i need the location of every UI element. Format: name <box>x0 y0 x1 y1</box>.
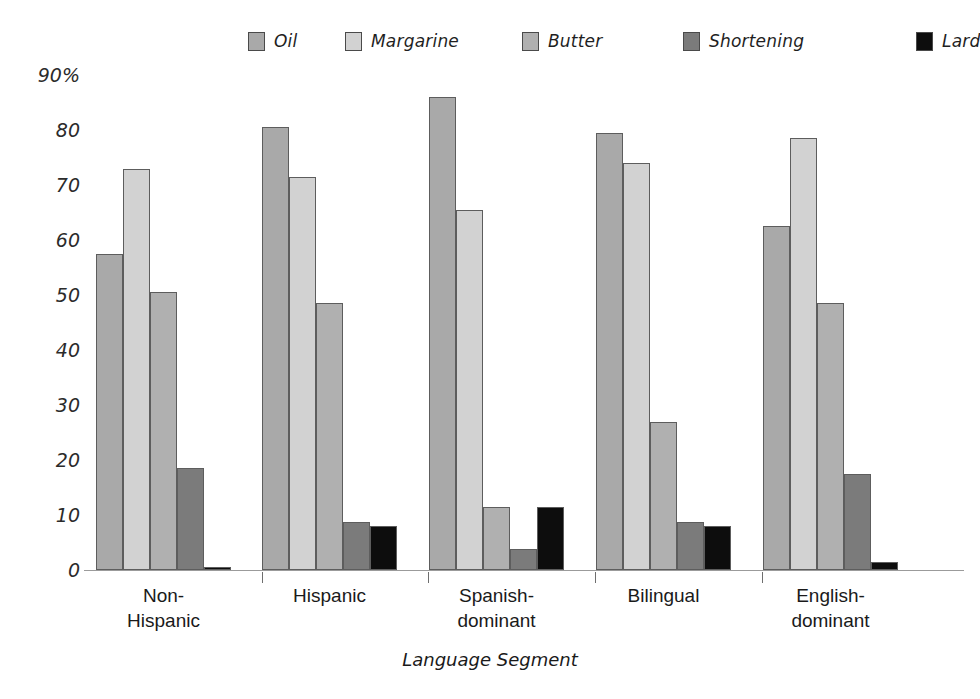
legend-swatch-icon <box>522 32 539 51</box>
legend-item-oil[interactable]: Oil <box>248 30 297 52</box>
bar-oil-spanish-dominant[interactable] <box>429 97 456 570</box>
bar-group <box>596 75 731 570</box>
bar-oil-bilingual[interactable] <box>596 133 623 570</box>
x-axis-label-bilingual: Bilingual <box>574 583 754 608</box>
bar-margarine-non-hispanic[interactable] <box>123 169 150 571</box>
x-axis-label-hispanic: Hispanic <box>240 583 420 608</box>
bar-margarine-english-dominant[interactable] <box>790 138 817 570</box>
legend-item-butter[interactable]: Butter <box>522 30 602 52</box>
legend-item-lard[interactable]: Lard <box>916 30 980 52</box>
bar-shortening-hispanic[interactable] <box>343 522 370 570</box>
legend-item-margarine[interactable]: Margarine <box>345 30 459 52</box>
x-axis-baseline <box>84 570 964 571</box>
legend-swatch-icon <box>916 32 933 51</box>
bar-oil-non-hispanic[interactable] <box>96 254 123 570</box>
bar-group <box>763 75 898 570</box>
y-axis-tick-label: 0 <box>68 559 80 581</box>
bar-lard-non-hispanic[interactable] <box>204 567 231 570</box>
legend-swatch-icon <box>345 32 362 51</box>
legend-label: Margarine <box>371 31 459 51</box>
x-axis-label-english-dominant: English- dominant <box>741 583 921 633</box>
bar-group <box>96 75 231 570</box>
bar-shortening-non-hispanic[interactable] <box>177 468 204 570</box>
bar-lard-english-dominant[interactable] <box>871 562 898 570</box>
x-axis-label-spanish-dominant: Spanish- dominant <box>407 583 587 633</box>
x-axis-label-non-hispanic: Non- Hispanic <box>74 583 254 633</box>
legend-label: Oil <box>274 31 297 51</box>
y-axis-tick-label: 20 <box>56 449 80 471</box>
plot-area <box>96 75 980 570</box>
legend-label: Butter <box>548 31 602 51</box>
legend-label: Shortening <box>709 31 804 51</box>
bar-butter-spanish-dominant[interactable] <box>483 507 510 570</box>
y-axis-tick-label: 10 <box>56 504 80 526</box>
bar-margarine-bilingual[interactable] <box>623 163 650 570</box>
legend-label: Lard <box>942 31 980 51</box>
y-axis-tick-label: 70 <box>56 174 80 196</box>
legend-swatch-icon <box>248 32 265 51</box>
bar-shortening-spanish-dominant[interactable] <box>510 549 537 570</box>
bar-shortening-bilingual[interactable] <box>677 522 704 570</box>
bar-oil-hispanic[interactable] <box>262 127 289 570</box>
y-axis-tick-label: 60 <box>56 229 80 251</box>
bar-margarine-hispanic[interactable] <box>289 177 316 570</box>
x-axis-tick <box>762 572 763 583</box>
x-axis-tick <box>428 572 429 583</box>
y-axis: 0102030405060708090% <box>0 75 92 595</box>
bar-lard-spanish-dominant[interactable] <box>537 507 564 570</box>
legend-swatch-icon <box>683 32 700 51</box>
y-axis-tick-label: 80 <box>56 119 80 141</box>
y-axis-tick-label: 30 <box>56 394 80 416</box>
bar-butter-non-hispanic[interactable] <box>150 292 177 570</box>
bar-butter-english-dominant[interactable] <box>817 303 844 570</box>
bar-group <box>262 75 397 570</box>
bar-oil-english-dominant[interactable] <box>763 226 790 570</box>
y-axis-tick-label: 50 <box>56 284 80 306</box>
chart-legend: OilMargarineButterShorteningLard <box>0 30 980 62</box>
x-axis-tick <box>595 572 596 583</box>
bar-chart: OilMargarineButterShorteningLard 0102030… <box>0 0 980 699</box>
y-axis-tick-label: 40 <box>56 339 80 361</box>
y-axis-tick-label: 90% <box>38 64 80 86</box>
bar-lard-bilingual[interactable] <box>704 526 731 570</box>
legend-item-shortening[interactable]: Shortening <box>683 30 804 52</box>
bar-shortening-english-dominant[interactable] <box>844 474 871 570</box>
bar-group <box>429 75 564 570</box>
bar-margarine-spanish-dominant[interactable] <box>456 210 483 570</box>
x-axis-title: Language Segment <box>0 649 980 670</box>
bar-butter-bilingual[interactable] <box>650 422 677 571</box>
bar-lard-hispanic[interactable] <box>370 526 397 570</box>
x-axis-tick <box>262 572 263 583</box>
bar-butter-hispanic[interactable] <box>316 303 343 570</box>
